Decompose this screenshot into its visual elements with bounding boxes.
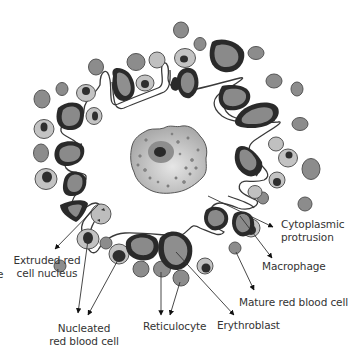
label-macrophage: Macrophage	[262, 260, 326, 273]
label-erythroblast: Erythroblast	[217, 319, 280, 332]
label-reticulocyte: Reticulocyte	[143, 320, 206, 333]
label-cut-edge-char: e	[0, 268, 3, 281]
label-cytoplasmic-protrusion: Cytoplasmic protrusion	[281, 218, 344, 244]
label-extruded-red-cell-nucleus: Extruded red cell nucleus	[12, 254, 82, 280]
label-nucleated-line1: Nucleated	[44, 322, 124, 335]
arrow-nucleated-rbc-2	[88, 258, 119, 315]
label-mature-red-blood-cell: Mature red blood cell	[239, 296, 348, 309]
arrow-reticulocyte-2	[170, 282, 180, 315]
label-nucleated-line2: red blood cell	[44, 335, 124, 348]
label-extruded-line2: cell nucleus	[12, 267, 82, 280]
label-nucleated-red-blood-cell: Nucleated red blood cell	[44, 322, 124, 348]
nucleus-extruding-cell	[91, 204, 111, 224]
macrophage	[131, 126, 207, 193]
macrophage-nucleus	[154, 147, 166, 157]
label-cytoplasmic-line2: protrusion	[281, 231, 344, 244]
arrow-mature-rbc	[236, 252, 254, 290]
label-cytoplasmic-line1: Cytoplasmic	[281, 218, 344, 231]
label-extruded-line1: Extruded red	[12, 254, 82, 267]
